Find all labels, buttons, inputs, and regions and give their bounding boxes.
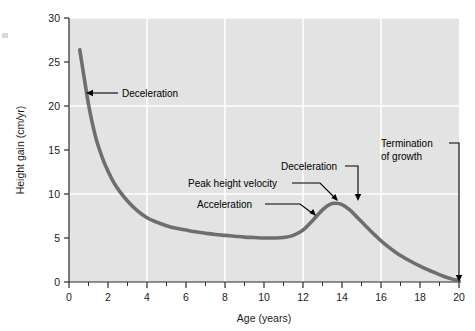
annotation-label: of growth	[381, 151, 422, 162]
y-tick-label: 0	[54, 276, 60, 288]
x-tick-label: 12	[297, 291, 309, 303]
growth-velocity-chart: 05101520253002468101214161820Age (years)…	[0, 0, 475, 331]
y-tick-label: 15	[48, 144, 60, 156]
plot-background	[69, 18, 459, 282]
y-tick-label: 30	[48, 12, 60, 24]
y-axis-title: Height gain (cm/yr)	[14, 106, 26, 195]
y-tick-label: 25	[48, 56, 60, 68]
x-tick-label: 16	[375, 291, 387, 303]
annotation-label: Termination	[381, 138, 433, 149]
y-tick-label: 20	[48, 100, 60, 112]
annotation-label: Acceleration	[197, 199, 252, 210]
x-tick-label: 4	[144, 291, 150, 303]
annotation-label: Deceleration	[122, 88, 178, 99]
x-tick-label: 8	[222, 291, 228, 303]
x-tick-label: 6	[183, 291, 189, 303]
scan-artifact	[2, 33, 8, 38]
x-tick-label: 2	[105, 291, 111, 303]
y-tick-label: 5	[54, 232, 60, 244]
y-tick-label: 10	[48, 188, 60, 200]
x-tick-label: 10	[258, 291, 270, 303]
x-axis-title: Age (years)	[237, 312, 291, 324]
x-tick-label: 14	[336, 291, 348, 303]
x-tick-label: 0	[66, 291, 72, 303]
annotation-label: Peak height velocity	[188, 178, 277, 189]
annotation-label: Deceleration	[281, 161, 337, 172]
x-tick-label: 20	[453, 291, 465, 303]
chart-canvas: 05101520253002468101214161820Age (years)…	[0, 0, 475, 331]
x-tick-label: 18	[414, 291, 426, 303]
